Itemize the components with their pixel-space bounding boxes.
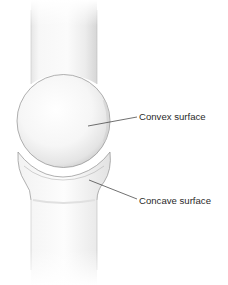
- joint-diagram: [0, 0, 228, 285]
- convex-head: [17, 75, 110, 168]
- concave-surface-label: Concave surface: [139, 196, 211, 206]
- lower-bone: [18, 152, 111, 285]
- convex-surface-label: Convex surface: [139, 112, 206, 122]
- upper-bone: [25, 0, 105, 84]
